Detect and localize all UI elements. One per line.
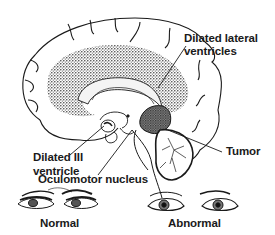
label-line: Dilated III <box>33 151 83 164</box>
label-normal: Normal <box>40 217 79 230</box>
label-dilated-lateral-ventricles: Dilated lateral ventricles <box>184 32 258 58</box>
label-oculomotor-nucleus: Oculomotor nucleus <box>38 173 148 186</box>
abnormal-eyes <box>148 191 238 211</box>
label-line: ventricles <box>184 45 258 58</box>
label-abnormal: Abnormal <box>168 217 221 230</box>
normal-eyes <box>18 188 98 209</box>
label-tumor: Tumor <box>226 145 260 158</box>
label-line: Dilated lateral <box>184 32 258 45</box>
cerebellum <box>156 130 193 180</box>
diencephalon <box>100 112 134 143</box>
